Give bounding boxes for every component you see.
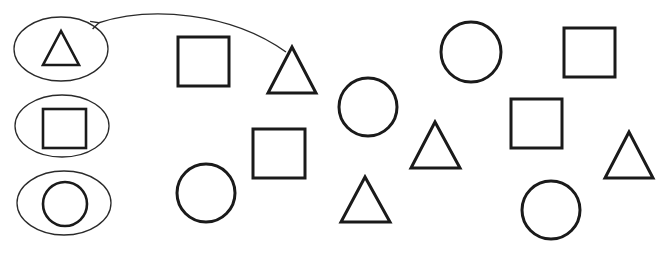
triangle-shape [411,122,460,168]
circle-shape [339,78,397,136]
square-shape [564,28,615,77]
square-icon [43,109,86,148]
triangle-shape [268,47,316,93]
category-ellipse [14,17,108,81]
circle-shape [522,181,580,239]
category-circle [17,171,111,235]
shape-sorting-diagram [0,0,670,253]
square-shape [253,129,305,178]
triangle-shape [341,177,390,222]
category-square [15,95,109,157]
triangle-shape [605,132,653,178]
circle-shape [441,22,501,82]
category-triangle [14,17,108,81]
circle-icon [43,182,87,226]
circle-shape [177,164,235,222]
square-shape [178,37,229,86]
triangle-icon [43,31,79,65]
diagram-svg [0,0,670,253]
sorting-arrow [98,14,286,52]
square-shape [511,99,562,148]
